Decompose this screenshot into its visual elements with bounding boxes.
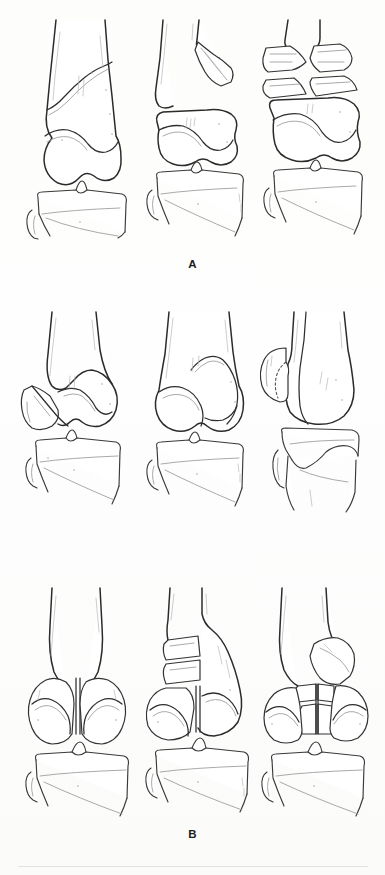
figure-a1-oblique-supracondylar: [22, 18, 137, 240]
figure-b3-coronal-hoffa-lateral: [256, 310, 376, 515]
figure-b1-medial-unicondylar: [18, 310, 136, 515]
panel-label-a: A: [0, 258, 385, 270]
figure-sheet: A: [0, 0, 385, 875]
figure-c2-intercondylar-comminuted: [142, 586, 260, 824]
panel-row-a: A: [0, 18, 385, 243]
figure-c1-t-intercondylar: [20, 586, 140, 824]
figure-a3-comminuted-supracondylar: [258, 18, 376, 240]
panel-label-b: B: [0, 828, 385, 840]
panel-row-c: C: [0, 586, 385, 826]
figure-b2-lateral-unicondylar: [143, 310, 255, 515]
scan-artifact-line: [18, 866, 368, 867]
figure-a2-displaced-supracondylar: [143, 18, 255, 240]
panel-row-b: B: [0, 310, 385, 515]
figure-c3-intercondylar-central-comminution: [256, 586, 376, 824]
